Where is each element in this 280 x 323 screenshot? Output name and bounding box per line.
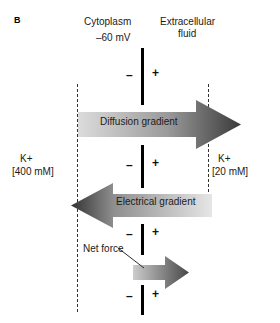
charge-negative-4: –: [126, 290, 133, 302]
charge-positive-2: +: [152, 157, 159, 169]
membrane-segment-top: [141, 48, 144, 105]
charge-positive-4: +: [152, 288, 159, 300]
cytoplasm-label: Cytoplasm: [84, 16, 131, 28]
membrane-ion-gradient-figure: B Cytoplasm –60 mV Extracellular fluid K…: [0, 0, 280, 323]
charge-negative-2: –: [126, 159, 133, 171]
potassium-outside-ion-label: K+: [218, 153, 231, 165]
net-force-label: Net force: [83, 243, 124, 255]
extracellular-fluid-label-line1: Extracellular: [160, 16, 215, 28]
potassium-inside-concentration-label: [400 mM]: [12, 166, 54, 178]
electrical-gradient-label: Electrical gradient: [116, 196, 195, 208]
panel-letter: B: [14, 15, 21, 25]
diffusion-gradient-label: Diffusion gradient: [100, 116, 178, 128]
charge-negative-1: –: [126, 69, 133, 81]
membrane-segment-bottom: [141, 285, 144, 315]
charge-positive-1: +: [152, 67, 159, 79]
extracellular-fluid-label-line2: fluid: [178, 28, 196, 40]
charge-negative-3: –: [126, 228, 133, 240]
membrane-potential-label: –60 mV: [96, 32, 130, 44]
membrane-segment-second: [141, 145, 144, 188]
potassium-outside-concentration-label: [20 mM]: [212, 166, 248, 178]
potassium-inside-ion-label: K+: [20, 153, 33, 165]
